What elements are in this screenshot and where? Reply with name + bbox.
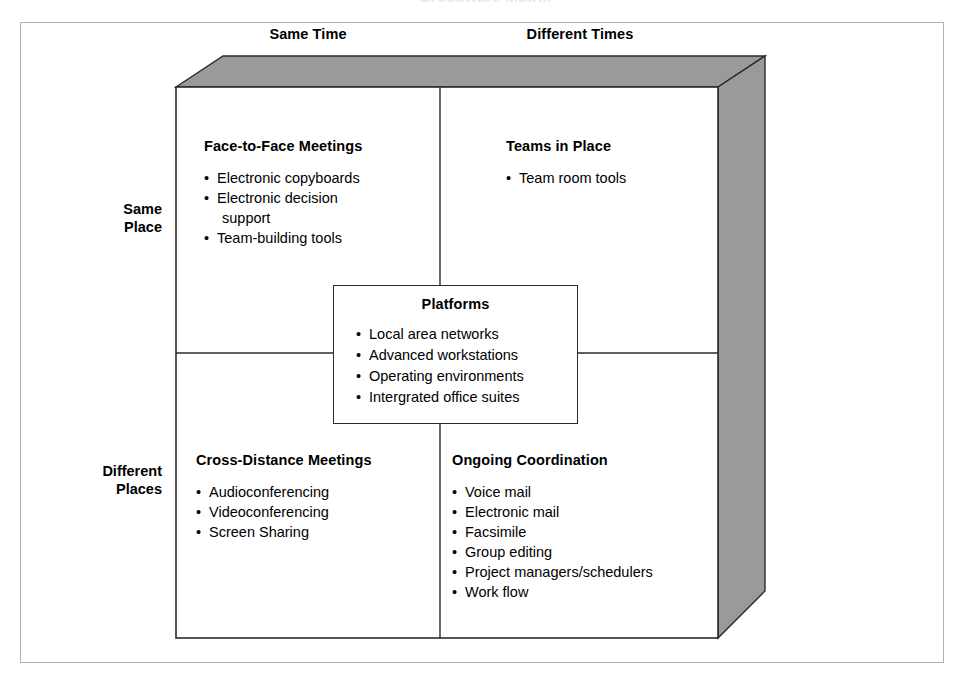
list-item: Voice mail [452,482,712,502]
list-item: Advanced workstations [356,345,577,366]
list-item: Operating environments [356,366,577,387]
list-item: Videoconferencing [196,502,436,522]
list-item: Audioconferencing [196,482,436,502]
list-item: Project managers/schedulers [452,562,712,582]
quadrant-item-list: Electronic copyboards Electronic decisio… [204,168,434,248]
quadrant-face-to-face-meetings: Face-to-Face Meetings Electronic copyboa… [204,138,434,248]
list-item: Electronic decision [204,188,434,208]
list-item: Team-building tools [204,228,434,248]
platforms-title: Platforms [334,296,577,312]
quadrant-title: Cross-Distance Meetings [196,452,436,468]
list-item: Intergrated office suites [356,387,577,408]
quadrant-title: Face-to-Face Meetings [204,138,434,154]
quadrant-title: Ongoing Coordination [452,452,712,468]
platforms-box: Platforms Local area networks Advanced w… [333,285,578,424]
list-item: Group editing [452,542,712,562]
list-item: Electronic copyboards [204,168,434,188]
quadrant-item-list: Audioconferencing Videoconferencing Scre… [196,482,436,542]
list-item: Local area networks [356,324,577,345]
quadrant-title: Teams in Place [506,138,726,154]
extrusion-top-face [176,56,765,87]
platforms-item-list: Local area networks Advanced workstation… [334,324,577,408]
diagram-canvas: Groupware Matrix Same Time Different Tim… [0,0,970,684]
quadrant-ongoing-coordination: Ongoing Coordination Voice mail Electron… [452,452,712,602]
quadrant-teams-in-place: Teams in Place Team room tools [506,138,726,188]
quadrant-item-list: Voice mail Electronic mail Facsimile Gro… [452,482,712,602]
list-item: Work flow [452,582,712,602]
list-item: Electronic mail [452,502,712,522]
list-item: Screen Sharing [196,522,436,542]
list-item: Team room tools [506,168,726,188]
quadrant-item-list: Team room tools [506,168,726,188]
list-item: Facsimile [452,522,712,542]
list-item-continuation: support [204,208,434,228]
quadrant-cross-distance-meetings: Cross-Distance Meetings Audioconferencin… [196,452,436,542]
